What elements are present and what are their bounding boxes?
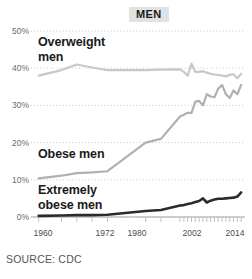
series-label-extremely-obese: Extremely obese men [38, 183, 102, 212]
y-axis-label-10: 10% [3, 176, 29, 185]
y-axis-label-20: 20% [3, 139, 29, 148]
y-axis-label-0: 0% [3, 213, 29, 222]
x-axis-label-1960: 1960 [26, 228, 60, 238]
series-label-overweight-line1: Overweight [38, 35, 105, 50]
x-axis-label-1972: 1972 [88, 228, 122, 238]
series-label-overweight: Overweight men [38, 35, 105, 64]
x-axis-label-2002: 2002 [175, 228, 209, 238]
x-axis-label-2014: 2014 [218, 228, 252, 238]
series-label-obese: Obese men [38, 147, 105, 162]
series-label-extremely-obese-line1: Extremely [38, 183, 102, 198]
y-axis-label-30: 30% [3, 101, 29, 110]
source-note: SOURCE: CDC [6, 253, 82, 265]
x-axis-label-1980: 1980 [120, 228, 154, 238]
y-axis-label-50: 50% [3, 27, 29, 36]
series-label-obese-line1: Obese men [38, 147, 105, 162]
y-axis-label-40: 40% [3, 64, 29, 73]
series-line-overweight-men [39, 64, 242, 78]
series-line-obese-men [39, 85, 242, 178]
series-label-overweight-line2: men [38, 50, 105, 65]
series-label-extremely-obese-line2: obese men [38, 198, 102, 213]
chart-figure: MEN 50% 40% 30% 20% 10% 0% 1960 1972 198… [0, 0, 252, 279]
